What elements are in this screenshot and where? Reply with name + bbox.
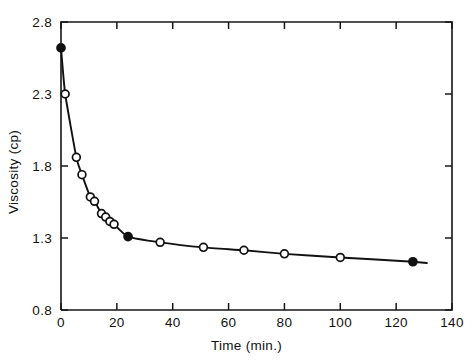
x-tick-label: 0: [57, 315, 65, 330]
data-point-open: [72, 153, 80, 161]
y-axis-title: Viscosity (cp): [6, 130, 21, 214]
data-point-open: [61, 90, 69, 98]
data-point-filled: [409, 258, 417, 266]
x-tick-label: 120: [384, 315, 407, 330]
x-tick-label: 60: [221, 315, 237, 330]
data-point-open: [91, 197, 99, 205]
y-tick-label: 0.8: [32, 303, 52, 318]
data-point-open: [281, 250, 289, 258]
chart-canvas: 0204060801001201400.81.31.82.32.8 Time (…: [0, 0, 472, 364]
x-tick-label: 100: [329, 315, 352, 330]
data-point-open: [110, 220, 118, 228]
x-tick-label: 80: [277, 315, 293, 330]
chart-axes: [61, 22, 452, 310]
x-tick-label: 20: [109, 315, 125, 330]
data-point-filled: [124, 233, 132, 241]
data-point-open: [336, 254, 344, 262]
y-tick-label: 1.3: [32, 231, 52, 246]
chart-ticks: [61, 22, 452, 310]
x-axis-title: Time (min.): [211, 338, 282, 353]
chart-data-curve: [61, 48, 427, 263]
data-point-open: [78, 171, 86, 179]
data-point-open: [156, 238, 164, 246]
plot-frame: [61, 22, 452, 310]
viscosity-curve: [61, 48, 427, 263]
y-tick-label: 2.3: [32, 87, 52, 102]
chart-data-markers: [57, 44, 417, 266]
viscosity-vs-time-chart: 0204060801001201400.81.31.82.32.8 Time (…: [0, 0, 472, 364]
data-point-open: [200, 243, 208, 251]
y-tick-label: 2.8: [32, 15, 52, 30]
data-point-open: [240, 246, 248, 254]
chart-tick-labels: 0204060801001201400.81.31.82.32.8: [32, 15, 463, 331]
y-tick-label: 1.8: [32, 159, 52, 174]
x-tick-label: 140: [440, 315, 463, 330]
x-tick-label: 40: [165, 315, 181, 330]
data-point-filled: [57, 44, 65, 52]
